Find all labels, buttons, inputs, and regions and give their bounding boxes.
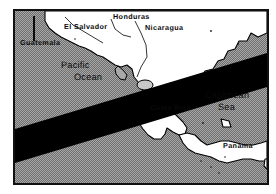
label-costa-rica: Costa Rica <box>150 104 191 112</box>
label-pacific-ocean-line2: Ocean <box>74 73 102 83</box>
label-nicaragua: Nicaragua <box>145 24 183 32</box>
label-honduras: Honduras <box>113 13 150 21</box>
label-guatemala: Guatemala <box>20 39 60 47</box>
label-caribbean-sea-line1: Caribbean <box>205 91 249 101</box>
label-caribbean-sea-line2: Sea <box>218 103 235 113</box>
label-panama: Panama <box>223 142 253 150</box>
label-pacific-ocean-line1: Pacific <box>61 61 89 71</box>
map-plate: Guatemala El Salvador Honduras Nicaragua… <box>13 9 269 185</box>
map-figure: Guatemala El Salvador Honduras Nicaragua… <box>0 0 276 194</box>
label-el-salvador: El Salvador <box>64 23 108 31</box>
